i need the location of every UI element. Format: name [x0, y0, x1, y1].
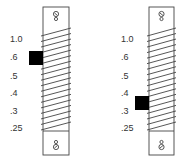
scale-label: .6 — [10, 52, 18, 62]
scale-label: .5 — [121, 71, 129, 81]
right-gauge-indicator — [135, 96, 149, 110]
scale-label: .4 — [121, 88, 129, 98]
left-gauge-indicator — [29, 51, 43, 65]
right-gauge-top-hook-icon — [159, 11, 164, 20]
spring-gauges-drawing — [0, 0, 185, 163]
scale-label: .5 — [10, 71, 18, 81]
diagram-root: 1.0.6.5.4.3.25 1.0.6.5.4.3.25 — [0, 0, 185, 163]
scale-label: .3 — [121, 106, 129, 116]
left-gauge-bottom-hook-icon — [53, 140, 58, 149]
scale-label: .25 — [10, 123, 23, 133]
left-gauge-top-hook-icon — [53, 11, 58, 20]
scale-label: 1.0 — [121, 34, 134, 44]
scale-label: .4 — [10, 88, 18, 98]
scale-label: .25 — [121, 123, 134, 133]
scale-label: 1.0 — [10, 34, 23, 44]
scale-label: .6 — [121, 52, 129, 62]
scale-label: .3 — [10, 106, 18, 116]
right-gauge-bottom-hook-icon — [159, 140, 164, 149]
